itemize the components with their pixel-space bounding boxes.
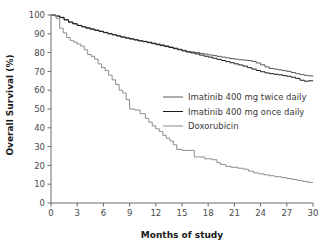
y-tick-label: 0 — [40, 198, 45, 208]
y-tick-label: 100 — [29, 10, 45, 20]
x-tick-label: 3 — [74, 208, 79, 218]
x-tick-label: 6 — [101, 208, 106, 218]
legend-label-2: Doxorubicin — [188, 121, 239, 131]
y-axis-title: Overall Survival (%) — [5, 54, 15, 155]
survival-chart-figure: 0102030405060708090100 03691215182124273… — [0, 0, 332, 246]
x-tick-label: 0 — [48, 208, 53, 218]
x-tick-label: 27 — [281, 208, 292, 218]
legend-label-0: Imatinib 400 mg twice daily — [188, 92, 306, 102]
chart-canvas: 0102030405060708090100 03691215182124273… — [0, 0, 332, 246]
y-tick-label: 60 — [34, 85, 45, 95]
y-tick-label: 30 — [34, 142, 45, 152]
x-axis-title: Months of study — [141, 230, 223, 240]
x-tick-label: 12 — [150, 208, 161, 218]
x-tick-label: 9 — [127, 208, 132, 218]
legend-label-1: Imatinib 400 mg once daily — [188, 107, 304, 117]
y-tick-label: 70 — [34, 67, 45, 77]
y-tick-label: 40 — [34, 123, 45, 133]
y-tick-label: 20 — [34, 161, 45, 171]
y-tick-label: 80 — [34, 48, 45, 58]
x-tick-label: 30 — [308, 208, 319, 218]
x-tick-label: 18 — [203, 208, 214, 218]
x-tick-label: 21 — [229, 208, 240, 218]
y-tick-label: 90 — [34, 29, 45, 39]
x-tick-label: 24 — [255, 208, 266, 218]
y-tick-label: 50 — [34, 104, 45, 114]
y-tick-label: 10 — [34, 179, 45, 189]
x-tick-label: 15 — [177, 208, 188, 218]
